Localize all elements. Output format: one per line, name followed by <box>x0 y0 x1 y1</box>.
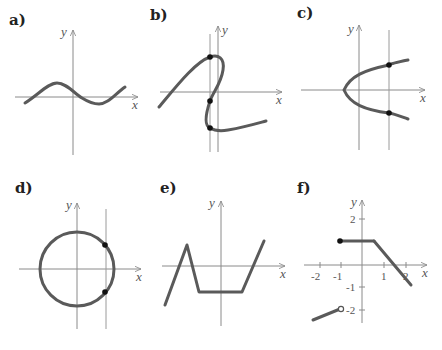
y-axis-label: y <box>349 194 357 209</box>
x-axis-label: x <box>275 92 282 107</box>
function-graphs-figure: a) y x b) y x c) y x d) y x <box>0 0 442 350</box>
y-axis-label: y <box>64 197 72 212</box>
panel-label-c: c) <box>297 4 313 22</box>
x-axis-label: x <box>135 269 142 284</box>
open-endpoint-dot <box>338 306 343 311</box>
x-axis-label: x <box>279 266 286 281</box>
x-axis-label: x <box>419 90 426 105</box>
y-axis-label: y <box>59 24 67 39</box>
panel-d: d) y x <box>15 179 142 329</box>
panel-c: c) y x <box>297 4 426 150</box>
x-axis-label: x <box>131 97 138 112</box>
intersection-dot <box>207 54 213 60</box>
intersection-dot <box>386 62 392 68</box>
x-tick-label: -2 <box>311 270 320 282</box>
intersection-dot <box>102 289 108 295</box>
panel-label-e: e) <box>160 179 177 197</box>
y-tick-label: -1 <box>346 281 355 293</box>
y-axis-label: y <box>220 22 228 37</box>
x-tick-label: -1 <box>333 270 342 282</box>
curve-a <box>25 83 125 104</box>
panel-f: f) y x -2 -1 1 2 2 -1 -2 <box>297 179 428 323</box>
panel-b: b) y x <box>150 6 282 152</box>
intersection-dot <box>386 110 392 116</box>
panel-label-a: a) <box>9 11 26 29</box>
panel-label-d: d) <box>15 179 33 197</box>
y-tick-label: 2 <box>350 213 356 225</box>
panel-label-f: f) <box>297 179 311 197</box>
panel-label-b: b) <box>150 6 168 24</box>
intersection-dot <box>102 242 108 248</box>
curve-b <box>159 56 266 131</box>
y-axis-label: y <box>346 21 354 36</box>
intersection-dot <box>207 98 213 104</box>
curve-e <box>165 241 264 305</box>
panel-a: a) y x <box>9 11 138 155</box>
segment-left <box>313 309 340 320</box>
intersection-dot <box>207 125 213 131</box>
closed-endpoint-dot <box>337 238 343 244</box>
y-tick-label: -2 <box>346 304 355 316</box>
panel-e: e) y x <box>160 179 286 326</box>
segment-descending <box>374 241 411 285</box>
x-axis-label: x <box>421 265 428 280</box>
y-axis-label: y <box>207 195 215 210</box>
x-tick-label: 1 <box>381 270 387 282</box>
